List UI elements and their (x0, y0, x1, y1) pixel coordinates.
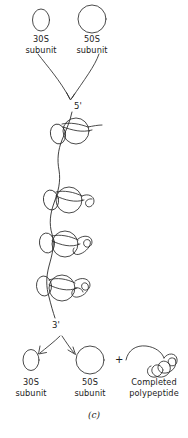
bottom-30s-label-line2: subunit (15, 388, 46, 398)
diagram-drawing (0, 0, 188, 438)
ribosome-4 (36, 275, 90, 301)
bottom-50s-subunit-shape (76, 346, 104, 374)
ribosome-1-trna-1 (62, 123, 88, 127)
completed-polypeptide-label: Completed polypeptide (121, 377, 187, 398)
bottom-50s-label-line1: 50S (82, 377, 98, 387)
ribosome-2 (42, 187, 94, 213)
ribosome-3-trna-1 (52, 235, 78, 240)
completed-polypeptide-shape (126, 346, 177, 377)
top-50s-subunit-label: 50S subunit (67, 34, 117, 55)
arrow-30s-to-mrna (38, 54, 70, 99)
plus-symbol: + (115, 354, 123, 365)
bottom-50s-subunit-label: 50S subunit (65, 377, 115, 398)
top-30s-subunit-shape (33, 9, 50, 31)
top-30s-label-line1: 30S (33, 34, 49, 44)
ribosome-2-polypeptide (82, 195, 94, 207)
ribosome-3-trna-2 (52, 241, 80, 246)
ribosome-1-polypeptide (88, 125, 102, 127)
top-30s-label-line2: subunit (25, 45, 56, 55)
top-50s-subunit-shape (78, 5, 106, 33)
ribosome-1 (49, 118, 102, 145)
top-50s-label-line2: subunit (76, 45, 107, 55)
bottom-30s-label-line1: 30S (23, 377, 39, 387)
polypeptide-label-line1: Completed (131, 377, 177, 387)
arrow-to-30s (40, 336, 60, 353)
ribosome-4-trna-2 (49, 285, 77, 290)
five-prime-label: 5' (74, 101, 82, 111)
arrow-50s-to-mrna (72, 54, 99, 98)
ribosome-2-trna-1 (56, 191, 82, 196)
mrna-strand (47, 112, 72, 318)
bottom-50s-label-line2: subunit (74, 388, 105, 398)
top-50s-label-line1: 50S (84, 34, 100, 44)
figure-caption: (c) (0, 410, 188, 420)
bottom-30s-subunit-label: 30S subunit (6, 377, 56, 398)
ribosome-4-polypeptide (72, 278, 90, 297)
ribosome-3 (38, 231, 92, 257)
polypeptide-label-line2: polypeptide (129, 388, 179, 398)
figure-protein-synthesis: 30S subunit 50S subunit 5' 3' 30S subuni… (0, 0, 188, 438)
three-prime-label: 3' (52, 320, 60, 330)
bottom-30s-subunit-shape (23, 350, 39, 371)
ribosome-2-trna-2 (56, 196, 84, 201)
top-30s-subunit-label: 30S subunit (16, 34, 66, 55)
